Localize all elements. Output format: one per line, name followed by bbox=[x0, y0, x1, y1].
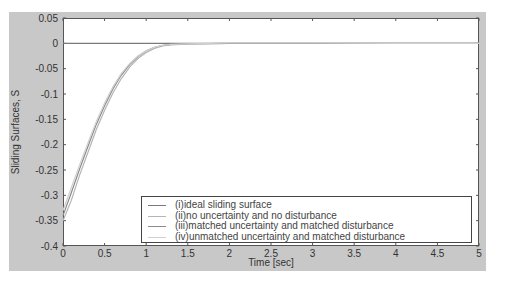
x-tick-label: 1 bbox=[143, 248, 149, 259]
legend-line-swatch bbox=[148, 226, 166, 227]
legend-label: (ii)no uncertainty and no disturbance bbox=[175, 210, 337, 221]
y-tick-label: -0.3 bbox=[41, 190, 59, 201]
y-tick-label: 0 bbox=[52, 38, 58, 49]
y-tick-label: -0.35 bbox=[35, 215, 58, 226]
x-tick-label: 4.5 bbox=[430, 248, 444, 259]
legend: (i)ideal sliding surface (ii)no uncertai… bbox=[141, 196, 472, 243]
x-tick-label: 3 bbox=[310, 248, 316, 259]
y-tick-label: 0.05 bbox=[39, 13, 59, 24]
series-line bbox=[63, 43, 479, 211]
x-tick-label: 0 bbox=[60, 248, 66, 259]
x-tick-label: 1.5 bbox=[181, 248, 195, 259]
y-tick-label: -0.25 bbox=[35, 165, 58, 176]
x-axis-label: Time [sec] bbox=[248, 257, 294, 268]
y-axis-label: Sliding Surfaces, S bbox=[10, 89, 21, 174]
legend-label: (iii)matched uncertainty and matched dis… bbox=[175, 220, 393, 231]
y-tick-label: -0.2 bbox=[41, 139, 59, 150]
legend-item-unmatched: (iv)unmatched uncertainty and matched di… bbox=[142, 232, 471, 243]
x-tick-label: 4 bbox=[393, 248, 399, 259]
y-tick-label: -0.05 bbox=[35, 63, 58, 74]
legend-line-swatch bbox=[148, 205, 166, 206]
x-tick-label: 0.5 bbox=[98, 248, 112, 259]
y-tick-label: -0.1 bbox=[41, 89, 59, 100]
data-series bbox=[63, 43, 479, 221]
legend-line-swatch bbox=[148, 216, 166, 217]
y-tick-label: -0.4 bbox=[41, 241, 59, 252]
legend-label: (iv)unmatched uncertainty and matched di… bbox=[175, 231, 405, 242]
x-tick-label: 2 bbox=[227, 248, 233, 259]
legend-line-swatch bbox=[148, 237, 166, 238]
x-tick-label: 5 bbox=[476, 248, 482, 259]
legend-label: (i)ideal sliding surface bbox=[175, 199, 272, 210]
x-tick-label: 3.5 bbox=[347, 248, 361, 259]
y-tick-label: -0.15 bbox=[35, 114, 58, 125]
